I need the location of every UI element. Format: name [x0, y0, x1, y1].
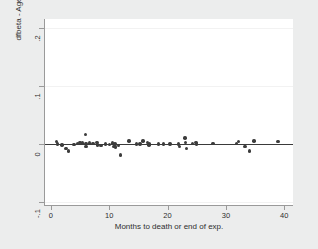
data-point [162, 142, 165, 145]
x-tick-mark [168, 206, 169, 210]
data-point [237, 140, 240, 143]
scatter-plot-figure: -.10.1.2 010203040 dfbeta - Age Months t… [0, 0, 318, 249]
data-point [195, 142, 198, 145]
y-axis-title: dfbeta - Age [14, 0, 26, 112]
x-tick-mark [109, 206, 110, 210]
x-tick-mark [51, 206, 52, 210]
x-tick-mark [284, 206, 285, 210]
data-point [60, 143, 63, 146]
data-point [276, 140, 279, 143]
gridline [45, 86, 293, 87]
plot-area [45, 19, 293, 205]
data-point [185, 147, 188, 150]
data-point [84, 145, 87, 148]
x-tick-mark [226, 206, 227, 210]
y-axis-line [44, 19, 45, 206]
data-point [248, 149, 251, 152]
data-point [252, 139, 255, 142]
data-point [168, 142, 171, 145]
data-point [148, 142, 151, 145]
data-point [67, 149, 70, 152]
data-point [127, 139, 130, 142]
data-point [138, 142, 141, 145]
gridline [45, 202, 293, 203]
x-tick-label: 0 [39, 211, 63, 220]
x-axis-title: Months to death or end of exp. [45, 222, 293, 231]
y-tick-label: 0 [33, 144, 42, 166]
data-point [243, 145, 246, 148]
data-point [178, 145, 181, 148]
data-point [84, 133, 87, 136]
y-tick-label: .1 [33, 86, 42, 108]
data-point [104, 142, 107, 145]
data-point [117, 144, 120, 147]
data-point [211, 142, 214, 145]
data-point [119, 153, 122, 156]
x-tick-label: 40 [272, 211, 296, 220]
data-point [91, 142, 94, 145]
data-point [56, 142, 59, 145]
data-point [141, 139, 144, 142]
x-tick-label: 20 [156, 211, 180, 220]
data-point [99, 144, 102, 147]
data-point [183, 136, 186, 139]
x-tick-label: 10 [97, 211, 121, 220]
y-tick-label: .2 [33, 28, 42, 50]
gridline [45, 28, 293, 29]
x-tick-label: 30 [214, 211, 238, 220]
data-point [157, 142, 160, 145]
